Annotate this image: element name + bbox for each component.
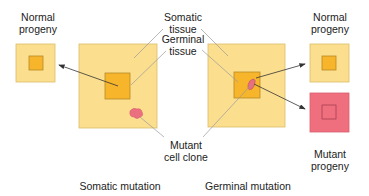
right-normal-progeny (310, 44, 349, 82)
left-normal-progeny (16, 44, 55, 82)
label-germinal-tissue: Germinal tissue (155, 33, 211, 57)
mutant-progeny (310, 93, 349, 132)
label-mutant-progeny: Mutant progeny (302, 148, 358, 172)
caption-somatic-mutation: Somatic mutation (70, 180, 170, 192)
germinal-organism (208, 44, 285, 127)
label-left-normal-progeny: Normal progeny (10, 11, 66, 35)
label-mutant-cell-clone: Mutant cell clone (154, 139, 218, 163)
caption-germinal-mutation: Germinal mutation (196, 180, 300, 192)
label-right-normal-progeny: Normal progeny (302, 11, 358, 35)
label-somatic-tissue: Somatic tissue (155, 11, 211, 35)
